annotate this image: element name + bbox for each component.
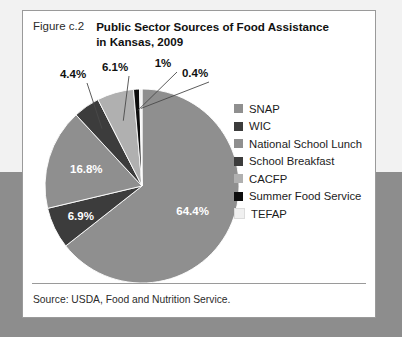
pie-value-label: 6.9% bbox=[68, 210, 94, 222]
pie-slice bbox=[48, 186, 142, 246]
pie-slice bbox=[45, 115, 142, 208]
legend-swatch-icon bbox=[234, 192, 243, 201]
legend-item-label: WIC bbox=[249, 120, 271, 132]
legend-item-label: School Breakfast bbox=[249, 155, 334, 167]
legend-item: CACFP bbox=[234, 170, 374, 188]
figure-number: Figure c.2 bbox=[33, 19, 84, 32]
legend-item-label: CACFP bbox=[249, 173, 287, 185]
pie-slice bbox=[133, 89, 142, 186]
legend-item-label: National School Lunch bbox=[249, 138, 362, 150]
pie-slice bbox=[76, 100, 142, 186]
legend-swatch-icon bbox=[234, 208, 245, 219]
legend-swatch-icon bbox=[234, 174, 243, 183]
source-note: Source: USDA, Food and Nutrition Service… bbox=[33, 294, 230, 305]
legend-item: WIC bbox=[234, 118, 374, 136]
figure-title: Public Sector Sources of Food Assistance… bbox=[96, 19, 329, 49]
pie-slice bbox=[98, 89, 142, 186]
page-backdrop-gray-bottom bbox=[0, 318, 402, 337]
footer-divider bbox=[32, 283, 366, 284]
figure-card: Figure c.2 Public Sector Sources of Food… bbox=[22, 10, 376, 318]
legend-item: Summer Food Service bbox=[234, 188, 374, 206]
page-backdrop-gray-right bbox=[376, 172, 402, 337]
pie-leader-line bbox=[138, 72, 177, 111]
pie-value-label: 64.4% bbox=[176, 205, 209, 217]
figure-title-line-2: in Kansas, 2009 bbox=[96, 34, 329, 49]
figure-title-line-1: Public Sector Sources of Food Assistance bbox=[96, 19, 329, 34]
legend-item-label: TEFAP bbox=[251, 208, 287, 220]
pie-value-label: 6.1% bbox=[102, 61, 128, 73]
pie-leader-line bbox=[141, 82, 209, 108]
legend-swatch-icon bbox=[234, 122, 243, 131]
pie-value-label: 16.8% bbox=[70, 163, 103, 175]
pie-slice bbox=[140, 89, 142, 186]
legend-swatch-icon bbox=[234, 157, 243, 166]
legend-item: School Breakfast bbox=[234, 153, 374, 171]
legend-item: SNAP bbox=[234, 100, 374, 118]
pie-leader-line bbox=[87, 83, 102, 129]
page-backdrop-gray-left bbox=[0, 172, 22, 337]
pie-slice bbox=[66, 89, 239, 283]
pie-value-label: 4.4% bbox=[60, 68, 86, 80]
pie-leader-line bbox=[123, 76, 129, 121]
chart-legend: SNAPWICNational School LunchSchool Break… bbox=[234, 100, 374, 223]
legend-item-label: Summer Food Service bbox=[249, 190, 361, 202]
legend-swatch-icon bbox=[234, 139, 243, 148]
legend-item: National School Lunch bbox=[234, 135, 374, 153]
figure-header: Figure c.2 Public Sector Sources of Food… bbox=[33, 19, 363, 49]
pie-value-label: 1% bbox=[155, 57, 172, 69]
legend-item: TEFAP bbox=[234, 205, 374, 223]
pie-value-label: 0.4% bbox=[182, 67, 208, 79]
legend-item-label: SNAP bbox=[249, 103, 280, 115]
legend-swatch-icon bbox=[234, 104, 243, 113]
